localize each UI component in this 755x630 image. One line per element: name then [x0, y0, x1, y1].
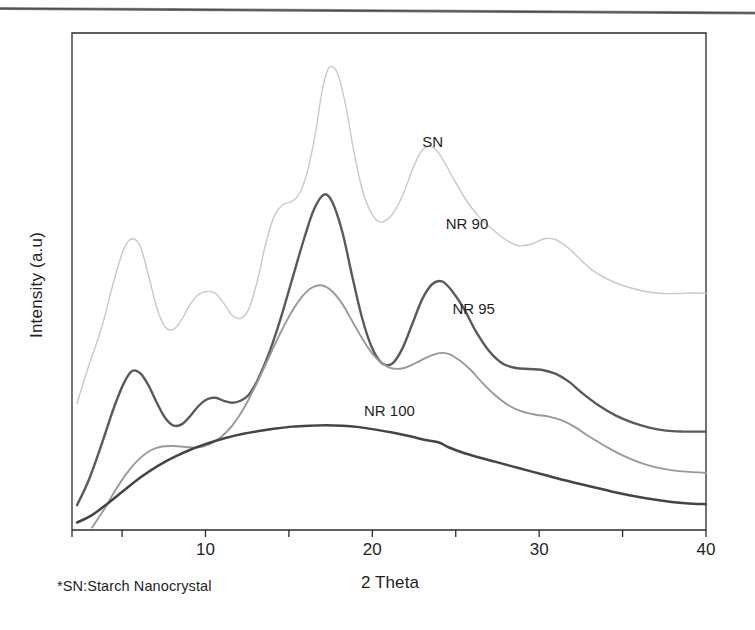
- xrd-plot-canvas: [0, 0, 755, 630]
- x-tick-label-30: 30: [519, 540, 559, 560]
- x-axis-title: 2 Theta: [330, 573, 450, 593]
- x-axis-ticks: [72, 530, 706, 537]
- x-tick-label-40: 40: [686, 540, 726, 560]
- series-curve-nr100: [77, 425, 706, 522]
- y-axis-title: Intensity (a.u): [27, 185, 47, 385]
- series-label-nr90: NR 90: [446, 215, 489, 232]
- series-label-nr95: NR 95: [452, 300, 495, 317]
- series-label-sn: SN: [422, 133, 443, 150]
- series-curve-sn: [77, 66, 706, 403]
- footnote-text: *SN:Starch Nanocrystal: [57, 578, 212, 594]
- x-tick-label-20: 20: [352, 540, 392, 560]
- x-tick-label-10: 10: [185, 540, 225, 560]
- figure-root: Intensity (a.u) 2 Theta *SN:Starch Nanoc…: [0, 0, 755, 630]
- series-label-nr100: NR 100: [364, 402, 415, 419]
